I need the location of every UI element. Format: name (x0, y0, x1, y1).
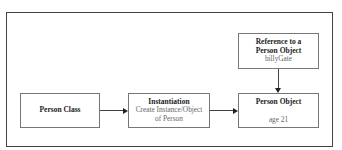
person-class-title: Person Class (39, 106, 80, 115)
person-object-age: age 21 (269, 116, 288, 124)
person-object-box: Person Object age 21 (238, 93, 319, 128)
edge-instantiation-to-object (210, 110, 233, 111)
edge-class-to-instantiation (100, 110, 123, 111)
arrowhead-right-icon (233, 108, 238, 114)
arrowhead-right-icon (123, 108, 128, 114)
edge-reference-to-object (278, 69, 279, 88)
reference-box: Reference to a Person Object billyGate (238, 33, 319, 69)
reference-variable-name: billyGate (265, 55, 292, 63)
instantiation-box: Instantiation Create Instance/Object of … (128, 93, 210, 128)
person-object-title: Person Object (256, 98, 302, 107)
person-class-box: Person Class (20, 93, 100, 128)
instantiation-subtitle-line2: of Person (155, 115, 183, 123)
arrowhead-down-icon (275, 88, 281, 93)
